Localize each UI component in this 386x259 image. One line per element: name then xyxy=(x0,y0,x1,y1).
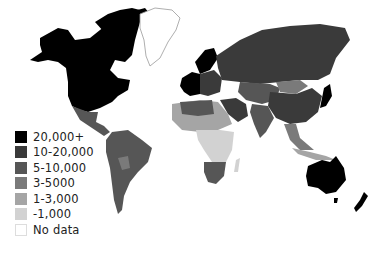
region-new-zealand xyxy=(354,192,368,212)
legend-item: -1,000 xyxy=(15,207,94,223)
legend-swatch-no-data xyxy=(15,224,27,236)
legend-swatch-under-1000 xyxy=(15,208,27,220)
legend-label: No data xyxy=(33,223,80,237)
legend-swatch-10-20000 xyxy=(15,146,27,158)
legend-item: 10-20,000 xyxy=(15,145,94,161)
legend-label: 20,000+ xyxy=(33,130,84,144)
legend-swatch-20000-plus xyxy=(15,131,27,143)
legend-item: 1-3,000 xyxy=(15,191,94,207)
region-southeast-asia xyxy=(284,124,314,150)
region-southern-africa xyxy=(204,162,226,184)
legend-item: 3-5000 xyxy=(15,176,94,192)
legend-swatch-3-5000 xyxy=(15,177,27,189)
region-madagascar xyxy=(234,158,240,172)
region-tasmania xyxy=(334,198,338,203)
region-central-africa xyxy=(196,130,234,162)
legend-label: -1,000 xyxy=(33,207,71,221)
legend-swatch-5-10000 xyxy=(15,162,27,174)
legend-swatch-1-3000 xyxy=(15,193,27,205)
region-indonesia xyxy=(292,148,336,160)
region-greenland xyxy=(140,8,180,66)
region-algeria-libya xyxy=(180,100,214,116)
legend-item: No data xyxy=(15,222,94,238)
legend-item: 20,000+ xyxy=(15,129,94,145)
region-russia xyxy=(216,24,350,84)
legend-label: 5-10,000 xyxy=(33,161,86,175)
region-north-america xyxy=(30,8,150,112)
legend-label: 3-5000 xyxy=(33,176,75,190)
region-scandinavia xyxy=(195,48,218,74)
region-australia xyxy=(306,156,346,194)
legend-item: 5-10,000 xyxy=(15,160,94,176)
region-eastern-europe xyxy=(200,70,222,96)
legend-label: 1-3,000 xyxy=(33,192,79,206)
legend-label: 10-20,000 xyxy=(33,145,94,159)
region-south-america xyxy=(106,130,152,214)
map-legend: 20,000+ 10-20,000 5-10,000 3-5000 1-3,00… xyxy=(15,129,94,238)
